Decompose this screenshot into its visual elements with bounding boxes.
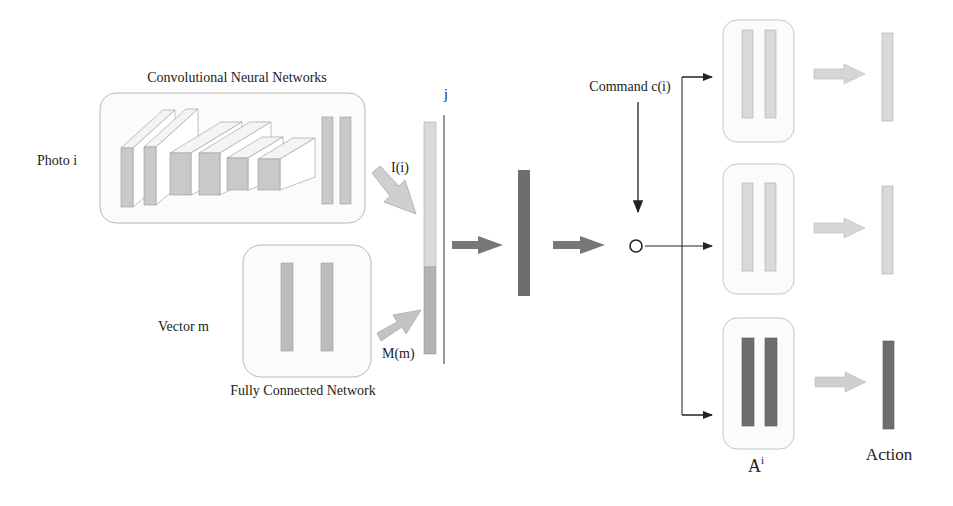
architecture-diagram: Convolutional Neural Networks [0, 0, 953, 506]
concat-image-part [424, 122, 436, 267]
hidden-vector [518, 170, 530, 296]
branch-2 [723, 164, 893, 294]
fcn-bar-1 [281, 263, 293, 351]
joint-label: j [443, 87, 448, 102]
vector-label: Vector m [158, 319, 209, 334]
image-feature-label: I(i) [391, 160, 409, 176]
branch-1-output [882, 33, 893, 121]
branch-2-output [882, 186, 893, 274]
joint-to-hidden-arrow [452, 236, 503, 254]
fcn-block [243, 245, 371, 377]
cnn-block [100, 93, 365, 223]
cnn-title: Convolutional Neural Networks [147, 70, 327, 85]
branch-label: Ai [748, 454, 764, 476]
concat-measure-part [424, 267, 436, 354]
photo-label: Photo i [37, 153, 77, 168]
hidden-to-switch-arrow [553, 236, 605, 254]
action-label: Action [866, 445, 913, 464]
branch-3-output [883, 341, 894, 429]
command-label: Command c(i) [589, 79, 671, 95]
measure-feature-arrow [377, 310, 421, 341]
cnn-fc-bar-2 [340, 117, 351, 204]
measure-feature-label: M(m) [382, 346, 415, 362]
fcn-bar-2 [321, 263, 333, 351]
cnn-fc-bar-1 [322, 117, 333, 204]
branch-1 [723, 20, 893, 142]
switch-node [630, 240, 642, 252]
fcn-title: Fully Connected Network [230, 383, 375, 398]
branch-3 [723, 318, 894, 449]
concat-vector [424, 115, 444, 364]
